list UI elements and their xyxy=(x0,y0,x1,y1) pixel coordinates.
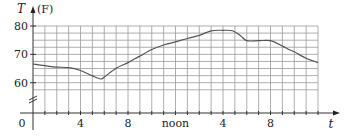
y-tick-label: 80 xyxy=(14,20,28,33)
x-tick-label: 4 xyxy=(220,117,227,130)
x-axis-arrow-icon xyxy=(333,111,340,116)
x-tick-label: noon xyxy=(162,117,189,130)
y-tick-label: 70 xyxy=(14,48,28,61)
origin-label: 0 xyxy=(19,117,26,130)
x-tick-label: 8 xyxy=(267,117,274,130)
y-axis-arrow-icon xyxy=(31,6,36,13)
x-tick-label: 8 xyxy=(125,117,132,130)
y-axis-unit: (F) xyxy=(37,3,53,16)
x-axis-label: t xyxy=(329,117,334,131)
y-tick-label: 60 xyxy=(14,77,28,90)
axis-labels: 60708048noon480T(F)t xyxy=(14,2,334,131)
x-tick-label: 4 xyxy=(77,117,84,130)
temperature-chart: 60708048noon480T(F)t xyxy=(0,0,350,140)
y-axis-label: T xyxy=(17,2,26,16)
